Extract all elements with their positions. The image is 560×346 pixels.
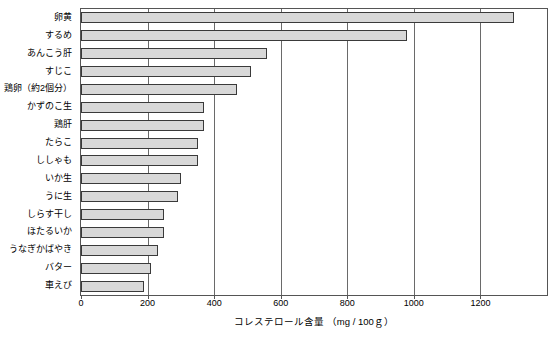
- x-tick-mark: [480, 295, 481, 299]
- bar: [81, 12, 514, 23]
- x-tick-label: 1200: [470, 298, 490, 308]
- bar: [81, 245, 158, 256]
- x-tick-mark: [214, 295, 215, 299]
- bar: [81, 191, 178, 202]
- bars-layer: [81, 9, 547, 295]
- bar: [81, 30, 407, 41]
- category-label: うなぎかばやき: [9, 244, 72, 254]
- x-tick-label: 600: [273, 298, 288, 308]
- gridline: [480, 9, 481, 295]
- bar: [81, 84, 237, 95]
- bar: [81, 138, 198, 149]
- category-label: 卵黄: [54, 12, 72, 22]
- category-label: するめ: [45, 30, 72, 40]
- category-label: ししゃも: [36, 155, 72, 165]
- category-label: 鶏肝: [54, 119, 72, 129]
- category-label: バター: [45, 262, 72, 272]
- x-tick-label: 400: [207, 298, 222, 308]
- x-tick-label: 1000: [404, 298, 424, 308]
- category-label: 鶏卵（約2個分）: [4, 83, 72, 93]
- bar: [81, 281, 144, 292]
- x-tick-mark: [281, 295, 282, 299]
- category-label: あんこう肝: [27, 48, 72, 58]
- x-tick-mark: [347, 295, 348, 299]
- bar: [81, 102, 204, 113]
- x-tick-mark: [81, 295, 82, 299]
- bar: [81, 227, 164, 238]
- x-tick-mark: [414, 295, 415, 299]
- gridline: [414, 9, 415, 295]
- x-axis-title: コレステロール含量 （mg / 100ｇ）: [80, 314, 548, 328]
- category-label: うに生: [45, 191, 72, 201]
- category-label: いか生: [45, 173, 72, 183]
- cholesterol-bar-chart: 卵黄するめあんこう肝すじこ鶏卵（約2個分）かずのこ生鶏肝たらこししゃもいか生うに…: [0, 0, 560, 346]
- bar: [81, 66, 251, 77]
- bar: [81, 120, 204, 131]
- value-axis-ticks: 020040060080010001200: [80, 296, 548, 312]
- bar: [81, 155, 198, 166]
- x-tick-label: 800: [340, 298, 355, 308]
- bar: [81, 173, 181, 184]
- category-label: しらす干し: [27, 209, 72, 219]
- bar: [81, 263, 151, 274]
- x-tick-label: 0: [78, 298, 83, 308]
- category-label: たらこ: [45, 137, 72, 147]
- category-label: かずのこ生: [27, 101, 72, 111]
- bar: [81, 209, 164, 220]
- category-label: すじこ: [45, 66, 72, 76]
- gridline: [281, 9, 282, 295]
- category-label: ほたるいか: [27, 226, 72, 236]
- category-label: 車えび: [45, 280, 72, 290]
- bar: [81, 48, 267, 59]
- plot-area: [80, 8, 548, 296]
- gridline: [347, 9, 348, 295]
- x-tick-mark: [148, 295, 149, 299]
- x-tick-label: 200: [140, 298, 155, 308]
- category-axis-labels: 卵黄するめあんこう肝すじこ鶏卵（約2個分）かずのこ生鶏肝たらこししゃもいか生うに…: [0, 8, 76, 296]
